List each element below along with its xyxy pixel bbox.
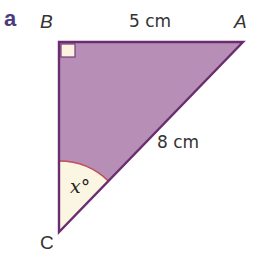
side-ba-length: 5 cm [129,13,171,30]
vertex-label-a: A [234,12,247,31]
triangle-figure: a B A C 5 cm 8 cm x° [0,0,256,257]
side-ac-length: 8 cm [157,134,199,151]
vertex-label-b: B [40,12,53,31]
right-angle-marker [61,44,75,57]
vertex-label-c: C [40,233,54,252]
right-triangle-diagram [0,0,256,257]
angle-x-label: x° [70,177,90,196]
